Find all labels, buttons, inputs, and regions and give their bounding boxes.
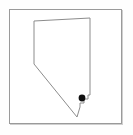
map-frame-border [9, 9, 122, 124]
map-title: Nevada [0, 0, 1, 1]
map-thumbnail[interactable]: Nevada [0, 0, 133, 135]
